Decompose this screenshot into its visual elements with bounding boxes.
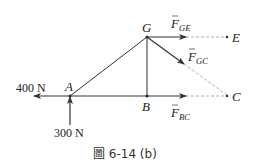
svg-text:BC: BC bbox=[179, 112, 190, 122]
label-B: B bbox=[142, 99, 150, 114]
label-F-GC: F GC bbox=[187, 49, 208, 66]
joint-B bbox=[145, 94, 148, 97]
label-F-GE: F GE bbox=[170, 16, 191, 33]
member-AG bbox=[70, 37, 147, 96]
truss-free-body-diagram: G A B E C 400 N 300 N F GE F GC F BC 圖 6… bbox=[0, 0, 254, 167]
label-G: G bbox=[142, 20, 152, 35]
label-C: C bbox=[232, 89, 241, 104]
point-E bbox=[226, 36, 229, 39]
force-arrow-GC bbox=[147, 37, 184, 64]
svg-text:GE: GE bbox=[179, 23, 191, 33]
label-400N: 400 N bbox=[16, 81, 46, 95]
label-300N: 300 N bbox=[54, 126, 84, 140]
joint-G bbox=[145, 35, 148, 38]
point-C bbox=[226, 95, 229, 98]
figure-caption: 圖 6-14 (b) bbox=[93, 147, 157, 161]
dashed-line-GC bbox=[184, 64, 227, 95]
svg-text:GC: GC bbox=[196, 56, 208, 66]
label-F-BC: F BC bbox=[170, 105, 190, 122]
label-A: A bbox=[64, 79, 73, 94]
label-E: E bbox=[231, 30, 240, 45]
joint-A bbox=[68, 94, 71, 97]
